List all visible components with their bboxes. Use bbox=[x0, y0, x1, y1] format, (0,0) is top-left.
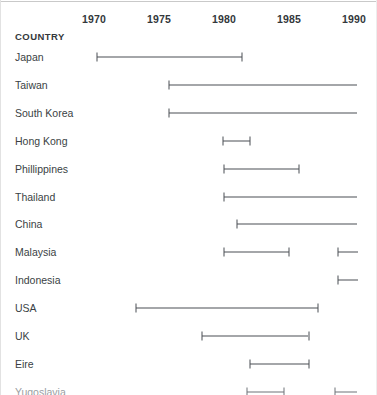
bar-segment bbox=[169, 84, 356, 85]
bar-start-cap bbox=[224, 164, 225, 173]
bar-end-cap bbox=[308, 332, 309, 341]
x-axis-tick-1970: 1970 bbox=[82, 13, 106, 25]
bar-start-cap bbox=[250, 359, 251, 368]
row-label-taiwan: Taiwan bbox=[15, 79, 48, 91]
bar-segment bbox=[338, 280, 358, 281]
row-label-thailand: Thailand bbox=[15, 191, 55, 203]
bar-segment bbox=[169, 112, 356, 113]
bar-start-cap bbox=[224, 248, 225, 257]
row-label-china: China bbox=[15, 218, 42, 230]
bar-start-cap bbox=[169, 80, 170, 89]
x-axis-tick-1980: 1980 bbox=[212, 13, 236, 25]
x-axis-tick-1990: 1990 bbox=[342, 13, 366, 25]
bar-segment bbox=[97, 57, 243, 58]
row-label-phillippines: Phillippines bbox=[15, 163, 68, 175]
top-divider bbox=[1, 1, 377, 2]
row-label-japan: Japan bbox=[15, 51, 44, 63]
row-label-indonesia: Indonesia bbox=[15, 274, 61, 286]
bar-segment bbox=[237, 224, 357, 225]
bar-start-cap bbox=[169, 108, 170, 117]
bar-segment bbox=[247, 391, 283, 392]
bar-segment bbox=[224, 168, 299, 169]
row-label-malaysia: Malaysia bbox=[15, 246, 56, 258]
bar-start-cap bbox=[135, 304, 136, 313]
bar-start-cap bbox=[338, 276, 339, 285]
bar-end-cap bbox=[299, 164, 300, 173]
bar-segment bbox=[224, 196, 357, 197]
x-axis-tick-1975: 1975 bbox=[147, 13, 171, 25]
bar-segment bbox=[224, 252, 289, 253]
bar-segment bbox=[335, 391, 357, 392]
country-column-header: COUNTRY bbox=[15, 31, 65, 42]
bar-start-cap bbox=[247, 387, 248, 395]
row-label-usa: USA bbox=[15, 302, 37, 314]
bar-end-cap bbox=[308, 359, 309, 368]
row-label-uk: UK bbox=[15, 330, 30, 342]
x-axis-tick-1985: 1985 bbox=[277, 13, 301, 25]
bar-segment bbox=[250, 363, 309, 364]
row-label-yugoslavia: Yugoslavia bbox=[15, 386, 66, 395]
gantt-chart: COUNTRY 19701975198019851990 JapanTaiwan… bbox=[0, 0, 377, 395]
bar-segment bbox=[223, 140, 250, 141]
bar-start-cap bbox=[338, 248, 339, 257]
bar-end-cap bbox=[289, 248, 290, 257]
row-label-eire: Eire bbox=[15, 358, 34, 370]
bar-end-cap bbox=[317, 304, 318, 313]
row-label-hong-kong: Hong Kong bbox=[15, 135, 68, 147]
bar-start-cap bbox=[201, 332, 202, 341]
bar-start-cap bbox=[222, 136, 223, 145]
bar-end-cap bbox=[250, 136, 251, 145]
bar-segment bbox=[338, 252, 358, 253]
bar-start-cap bbox=[237, 220, 238, 229]
bar-start-cap bbox=[96, 53, 97, 62]
bar-start-cap bbox=[334, 387, 335, 395]
bar-end-cap bbox=[283, 387, 284, 395]
bar-segment bbox=[202, 336, 309, 337]
bar-segment bbox=[136, 308, 318, 309]
row-label-south-korea: South Korea bbox=[15, 107, 73, 119]
bar-start-cap bbox=[224, 192, 225, 201]
bar-end-cap bbox=[242, 53, 243, 62]
